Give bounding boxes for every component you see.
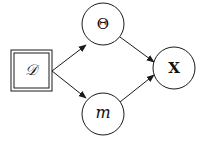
edge-d-to-m (52, 71, 86, 98)
node-m-label: m (95, 103, 110, 122)
edge-m-to-x (120, 75, 154, 102)
node-theta-label: Θ (97, 15, 109, 33)
node-x-label: X (168, 59, 180, 77)
edge-d-to-theta (52, 45, 86, 71)
node-theta: Θ (82, 3, 124, 45)
node-d: 𝒟 (11, 50, 52, 91)
node-x: X (153, 47, 195, 89)
node-m: m (82, 93, 124, 135)
edge-theta-to-x (120, 37, 154, 62)
graphical-model-diagram: 𝒟 Θ m X (0, 0, 205, 145)
